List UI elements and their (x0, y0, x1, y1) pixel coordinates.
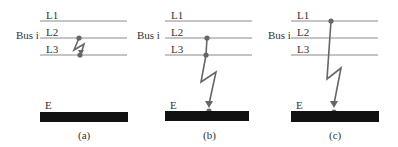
label-l2: L2 (46, 27, 58, 38)
bus-label: Bus i (16, 30, 39, 41)
label-l3: L3 (297, 44, 309, 55)
panel-c: Bus i L1 L2 L3 E (c) (260, 0, 398, 147)
panel-b-drawing (130, 0, 263, 147)
caption-c: (c) (329, 130, 341, 141)
fault-lightning-icon (74, 35, 84, 57)
ground-bar (291, 111, 379, 122)
label-ground: E (170, 100, 177, 111)
panel-a: Bus i L1 L2 L3 E (a) (0, 0, 133, 147)
bus-label: Bus i (268, 30, 291, 41)
label-l2: L2 (171, 27, 183, 38)
label-ground: E (45, 100, 52, 111)
caption-b: (b) (203, 130, 216, 141)
ground-bar (40, 112, 128, 122)
label-l1: L1 (46, 10, 58, 21)
label-l3: L3 (46, 44, 58, 55)
label-l2: L2 (297, 27, 309, 38)
caption-a: (a) (78, 130, 90, 141)
label-l3: L3 (171, 44, 183, 55)
fault-lightning-icon (327, 18, 341, 114)
label-ground: E (296, 100, 303, 111)
panel-a-drawing (0, 0, 133, 147)
label-l1: L1 (297, 10, 309, 21)
panel-c-drawing (260, 0, 398, 147)
bus-label: Bus i (137, 30, 160, 41)
fault-lightning-icon (201, 35, 216, 113)
ground-bar (165, 111, 249, 121)
panel-b: Bus i L1 L2 L3 E (b) (130, 0, 263, 147)
label-l1: L1 (171, 10, 183, 21)
